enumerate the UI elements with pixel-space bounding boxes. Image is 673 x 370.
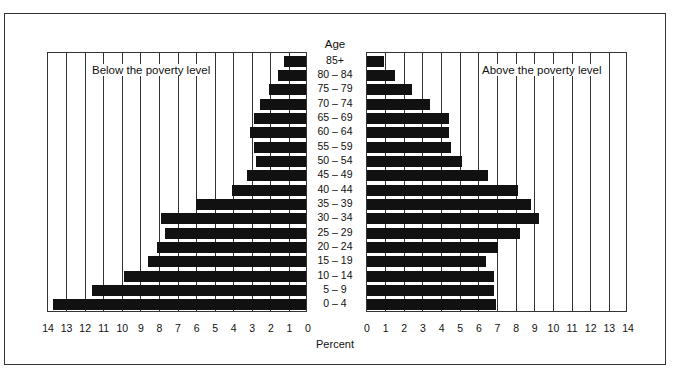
bar-below-poverty [269, 84, 306, 95]
bar-below-poverty [260, 99, 306, 110]
bar-below-poverty [165, 228, 306, 239]
tick-label: 7 [488, 322, 508, 334]
bar-below-poverty [250, 127, 306, 138]
bar-below-poverty [254, 113, 306, 124]
age-group-label: 50 – 54 [307, 155, 363, 166]
x-axis-title: Percent [307, 338, 363, 350]
age-group-label: 0 – 4 [307, 298, 363, 309]
gridline [122, 53, 123, 311]
age-group-label: 75 – 79 [307, 83, 363, 94]
age-axis-title: Age [307, 38, 363, 50]
age-group-label: 15 – 19 [307, 255, 363, 266]
age-group-label: 55 – 59 [307, 141, 363, 152]
bar-above-poverty [367, 299, 496, 310]
bar-below-poverty [232, 185, 306, 196]
gridline [516, 53, 517, 311]
bar-above-poverty [367, 127, 449, 138]
tick-label: 8 [506, 322, 526, 334]
tick-label: 14 [38, 322, 58, 334]
bar-below-poverty [157, 242, 306, 253]
tick-label: 2 [394, 322, 414, 334]
tick-label: 8 [149, 322, 169, 334]
bar-below-poverty [284, 56, 306, 67]
bar-below-poverty [278, 70, 306, 81]
tick-label: 5 [450, 322, 470, 334]
tick-label: 9 [131, 322, 151, 334]
tick-label: 1 [376, 322, 396, 334]
tick-label: 12 [75, 322, 95, 334]
age-group-label: 35 – 39 [307, 198, 363, 209]
tick-label: 14 [618, 322, 638, 334]
tick-label: 13 [599, 322, 619, 334]
left-series-title: Below the poverty level [90, 64, 212, 76]
age-group-label: 60 – 64 [307, 126, 363, 137]
tick-label: 4 [224, 322, 244, 334]
gridline [609, 53, 610, 311]
bar-above-poverty [367, 156, 462, 167]
age-group-label: 45 – 49 [307, 169, 363, 180]
gridline [85, 53, 86, 311]
bar-below-poverty [256, 156, 306, 167]
tick-label: 11 [562, 322, 582, 334]
age-group-label: 20 – 24 [307, 241, 363, 252]
tick-label: 3 [413, 322, 433, 334]
tick-label: 0 [298, 322, 318, 334]
age-group-label: 85+ [307, 55, 363, 66]
age-group-label: 65 – 69 [307, 112, 363, 123]
tick-label: 0 [357, 322, 377, 334]
age-group-label: 80 – 84 [307, 69, 363, 80]
left-panel-below-poverty [47, 52, 307, 312]
bar-above-poverty [367, 285, 494, 296]
tick-label: 5 [205, 322, 225, 334]
bar-above-poverty [367, 70, 395, 81]
gridline [66, 53, 67, 311]
tick-label: 6 [469, 322, 489, 334]
bar-below-poverty [161, 213, 306, 224]
tick-label: 11 [94, 322, 114, 334]
gridline [553, 53, 554, 311]
bar-above-poverty [367, 271, 494, 282]
tick-label: 3 [242, 322, 262, 334]
bar-below-poverty [148, 256, 306, 267]
tick-label: 6 [187, 322, 207, 334]
age-group-label: 70 – 74 [307, 98, 363, 109]
gridline [590, 53, 591, 311]
gridline [497, 53, 498, 311]
tick-label: 13 [57, 322, 77, 334]
bar-above-poverty [367, 185, 518, 196]
age-group-label: 40 – 44 [307, 184, 363, 195]
bar-above-poverty [367, 56, 384, 67]
right-series-title: Above the poverty level [480, 64, 604, 76]
bar-above-poverty [367, 242, 498, 253]
gridline [103, 53, 104, 311]
bar-above-poverty [367, 199, 531, 210]
tick-label: 7 [168, 322, 188, 334]
bar-below-poverty [247, 170, 306, 181]
tick-label: 12 [581, 322, 601, 334]
bar-above-poverty [367, 99, 430, 110]
bar-above-poverty [367, 256, 486, 267]
gridline [534, 53, 535, 311]
tick-label: 10 [112, 322, 132, 334]
bar-above-poverty [367, 84, 412, 95]
tick-label: 9 [525, 322, 545, 334]
tick-label: 4 [432, 322, 452, 334]
tick-label: 1 [279, 322, 299, 334]
bar-below-poverty [124, 271, 306, 282]
tick-label: 10 [543, 322, 563, 334]
bar-above-poverty [367, 213, 539, 224]
bar-above-poverty [367, 142, 451, 153]
bar-above-poverty [367, 113, 449, 124]
gridline [572, 53, 573, 311]
bar-above-poverty [367, 170, 488, 181]
age-group-label: 10 – 14 [307, 270, 363, 281]
bar-below-poverty [196, 199, 306, 210]
right-panel-above-poverty [366, 52, 627, 312]
age-group-label: 5 – 9 [307, 284, 363, 295]
age-group-label: 25 – 29 [307, 227, 363, 238]
bar-below-poverty [254, 142, 306, 153]
bar-above-poverty [367, 228, 520, 239]
age-group-label: 30 – 34 [307, 212, 363, 223]
bar-below-poverty [53, 299, 306, 310]
bar-below-poverty [92, 285, 306, 296]
